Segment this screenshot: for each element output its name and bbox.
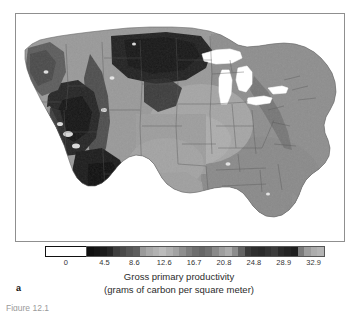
colorbar-band-11 — [159, 247, 166, 256]
colorbar-band-27 — [265, 247, 272, 256]
legend-caption: Gross primary productivity (grams of car… — [0, 270, 358, 296]
colorbar-tick-28.9: 28.9 — [276, 258, 291, 267]
colorbar-band-33 — [304, 247, 311, 256]
gpp-raster-map — [16, 14, 344, 241]
colorbar-band-24 — [245, 247, 252, 256]
colorbar-band-17 — [199, 247, 206, 256]
colorbar-band-16 — [192, 247, 199, 256]
colorbar-band-35 — [317, 247, 324, 256]
colorbar-legend: 0 4.58.612.616.720.824.828.932.9 — [0, 246, 358, 260]
colorbar-band-8 — [140, 247, 147, 256]
colorbar-tick-labels: 4.58.612.616.720.824.828.932.9 — [86, 258, 325, 269]
gpp-colorbar — [86, 246, 325, 257]
colorbar-band-2 — [100, 247, 107, 256]
colorbar-band-20 — [219, 247, 226, 256]
colorbar-band-23 — [238, 247, 245, 256]
panel-label-a: a — [16, 283, 21, 293]
colorbar-tick-20.8: 20.8 — [217, 258, 232, 267]
colorbar-tick-8.6: 8.6 — [129, 258, 140, 267]
colorbar-band-26 — [258, 247, 265, 256]
zero-value-label: 0 — [45, 258, 87, 267]
colorbar-band-12 — [166, 247, 173, 256]
colorbar-band-34 — [311, 247, 318, 256]
colorbar-band-18 — [205, 247, 212, 256]
colorbar-band-31 — [291, 247, 298, 256]
colorbar-band-25 — [251, 247, 258, 256]
colorbar-band-9 — [146, 247, 153, 256]
colorbar-band-5 — [120, 247, 127, 256]
caption-line-1: Gross primary productivity — [0, 270, 358, 283]
colorbar-band-30 — [284, 247, 291, 256]
colorbar-band-4 — [113, 247, 120, 256]
colorbar-band-19 — [212, 247, 219, 256]
zero-value-swatch — [45, 246, 87, 257]
colorbar-band-13 — [173, 247, 180, 256]
colorbar-band-10 — [153, 247, 160, 256]
colorbar-tick-16.7: 16.7 — [187, 258, 202, 267]
gpp-map-panel — [15, 13, 345, 242]
colorbar-band-6 — [126, 247, 133, 256]
colorbar-band-14 — [179, 247, 186, 256]
colorbar-band-32 — [298, 247, 305, 256]
colorbar-band-22 — [232, 247, 239, 256]
colorbar-tick-12.6: 12.6 — [157, 258, 172, 267]
colorbar-tick-24.8: 24.8 — [246, 258, 261, 267]
caption-line-2: (grams of carbon per square meter) — [0, 283, 358, 296]
figure-caption-cropped: Figure 12.1 — [6, 303, 346, 311]
colorbar-band-29 — [278, 247, 285, 256]
colorbar-band-3 — [107, 247, 114, 256]
colorbar-band-15 — [186, 247, 193, 256]
colorbar-band-7 — [133, 247, 140, 256]
colorbar-tick-32.9: 32.9 — [306, 258, 321, 267]
colorbar-band-1 — [94, 247, 101, 256]
colorbar-band-0 — [87, 247, 94, 256]
colorbar-band-28 — [271, 247, 278, 256]
colorbar-tick-4.5: 4.5 — [99, 258, 110, 267]
colorbar-band-21 — [225, 247, 232, 256]
